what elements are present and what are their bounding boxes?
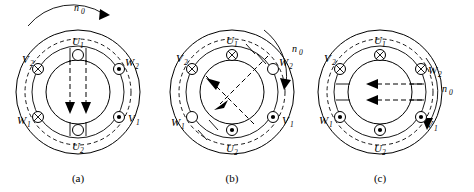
terminal-sub-u2-c: 2	[382, 148, 386, 157]
rotation-sub-b: 0	[299, 48, 303, 57]
terminal-symbol-w2-c	[416, 64, 427, 75]
terminal-symbol-w1-c	[335, 112, 346, 123]
terminal-sub-w1-a: 1	[27, 120, 31, 129]
field-arrows-a	[65, 60, 91, 114]
terminal-symbol-u1-b	[227, 50, 238, 61]
terminal-symbol-u2-c	[375, 125, 386, 136]
terminal-symbol-v1-b	[268, 112, 279, 123]
terminal-sub-v1-a: 1	[136, 118, 140, 127]
terminal-symbol-w1-b	[187, 112, 198, 123]
terminal-label-w1-b: W	[171, 116, 181, 128]
terminal-label-w1-c: W	[319, 114, 329, 126]
rotation-sub-a: 0	[81, 7, 85, 16]
panel-c: n 0	[316, 0, 474, 192]
terminal-symbol-w2-b	[268, 64, 279, 75]
terminal-symbol-v2-c	[335, 64, 346, 75]
rotation-arrow-a	[28, 5, 110, 26]
terminal-sub-w2-a: 2	[135, 62, 139, 71]
terminal-symbol-w2-a	[114, 64, 125, 75]
terminal-sub-u1-a: 1	[80, 41, 84, 50]
panel-caption-c: (c)	[374, 172, 387, 185]
terminal-label-w2-c: W	[428, 64, 438, 76]
slot-walls-c	[336, 84, 424, 100]
terminal-sub-w1-b: 1	[181, 122, 185, 131]
terminal-sub-v2-b: 2	[184, 58, 188, 67]
terminal-sub-v1-b: 1	[290, 120, 294, 129]
terminal-label-w2-b: W	[279, 56, 289, 68]
rotation-label-b: n	[292, 43, 297, 54]
terminal-symbol-u1-c	[375, 50, 386, 61]
terminal-sub-u1-b: 1	[234, 40, 238, 49]
panel-caption-a: (a)	[72, 172, 85, 185]
terminal-sub-v2-c: 2	[332, 58, 336, 67]
rotating-field-figure: n 0	[0, 0, 474, 192]
terminal-symbol-u1-a	[73, 50, 84, 61]
terminal-symbol-u2-a	[73, 125, 84, 136]
panel-caption-b: (b)	[226, 172, 239, 185]
terminal-sub-w2-c: 2	[438, 70, 442, 79]
panel-b: n 0	[158, 0, 316, 192]
rotation-label-a: n	[74, 2, 79, 13]
rotor-circle-c	[348, 60, 412, 124]
terminal-sub-v2-a: 2	[30, 59, 34, 68]
terminal-label-w2-a: W	[125, 56, 135, 68]
slot-walls-a	[70, 48, 86, 136]
field-arrows-c	[366, 79, 422, 105]
panel-a: n 0	[0, 0, 158, 192]
terminal-sub-u2-b: 2	[234, 148, 238, 157]
terminal-label-w1-a: W	[17, 114, 27, 126]
terminal-sub-v1-c: 1	[434, 124, 438, 133]
terminal-symbol-v2-a	[33, 64, 44, 75]
terminal-symbol-v1-c	[416, 112, 427, 123]
terminal-symbol-w1-a	[33, 112, 44, 123]
terminal-sub-u1-c: 1	[382, 40, 386, 49]
terminal-symbol-v1-a	[114, 112, 125, 123]
terminal-symbol-u2-b	[227, 125, 238, 136]
terminal-symbol-v2-b	[187, 64, 198, 75]
rotor-circle-a	[46, 60, 110, 124]
field-arrows-b	[206, 56, 268, 124]
terminal-sub-u2-a: 2	[80, 146, 84, 155]
terminal-sub-w2-b: 2	[289, 62, 293, 71]
rotation-sub-c: 0	[449, 88, 453, 97]
rotation-label-c: n	[442, 83, 447, 94]
terminal-sub-w1-c: 1	[329, 120, 333, 129]
